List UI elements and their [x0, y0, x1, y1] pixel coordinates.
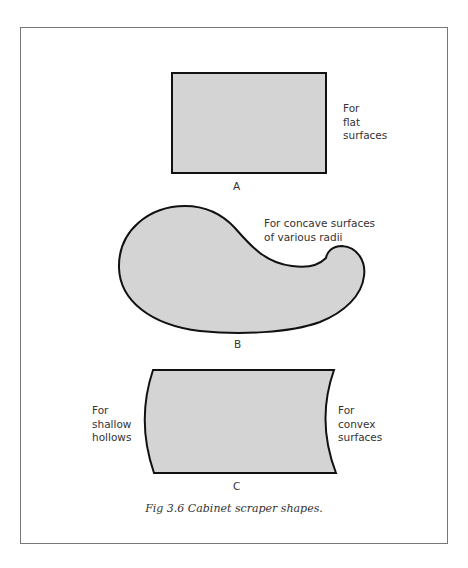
shape-c-right-description: For convex surfaces: [338, 404, 382, 445]
scraper-shape-a: [172, 73, 326, 173]
shape-a-letter: A: [233, 180, 240, 192]
scraper-shape-c: [145, 370, 336, 473]
figure-caption: Fig 3.6 Cabinet scraper shapes.: [0, 502, 468, 515]
shape-c-letter: C: [233, 480, 240, 492]
shape-c-left-description: For shallow hollows: [92, 404, 131, 445]
shape-a-description: For flat surfaces: [343, 102, 387, 143]
shape-b-description: For concave surfaces of various radii: [264, 217, 375, 244]
shape-b-letter: B: [234, 338, 241, 350]
